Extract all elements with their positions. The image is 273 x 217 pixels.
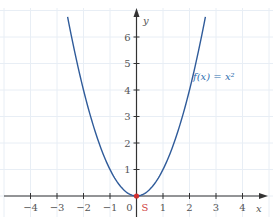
function-label: f(x) = x²: [192, 71, 235, 82]
x-tick-label: −4: [23, 202, 38, 213]
y-tick-label: 1: [124, 164, 130, 175]
x-tick-label: 2: [186, 202, 192, 213]
x-axis-label: x: [256, 203, 262, 214]
x-tick-label: 4: [239, 202, 245, 213]
y-tick-label: 5: [124, 58, 130, 69]
parabola-chart: −4−3−2−101234123456 S x y f(x) = x²: [0, 0, 273, 217]
vertex-point: [134, 193, 139, 198]
y-tick-label: 2: [124, 138, 130, 149]
x-tick-label: 3: [213, 202, 219, 213]
labels: x y f(x) = x²: [142, 15, 262, 214]
x-tick-label: −1: [103, 202, 118, 213]
y-axis-arrow-icon: [134, 8, 140, 17]
x-axis-arrow-icon: [259, 193, 268, 199]
y-tick-label: 3: [124, 111, 130, 122]
vertex-label: S: [142, 202, 149, 213]
y-axis-label: y: [142, 15, 149, 26]
y-tick-label: 6: [124, 32, 130, 43]
x-tick-label: 0: [126, 202, 132, 213]
axes: [4, 8, 268, 217]
x-tick-label: 1: [160, 202, 166, 213]
x-tick-label: −3: [50, 202, 65, 213]
x-tick-label: −2: [76, 202, 91, 213]
y-tick-label: 4: [124, 85, 130, 96]
